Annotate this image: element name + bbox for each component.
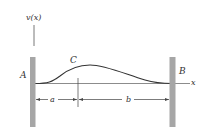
dimension-a-label: a xyxy=(50,95,55,104)
vertical-axis-label: v(x) xyxy=(26,13,41,22)
point-c-label: C xyxy=(70,55,77,65)
x-axis-label: x xyxy=(191,78,196,87)
left-support-label: A xyxy=(19,70,27,80)
deflection-curve xyxy=(35,65,172,84)
left-fixed-support xyxy=(30,57,36,127)
right-fixed-support xyxy=(170,57,176,127)
dimension-b xyxy=(79,98,169,101)
beam-deflection-diagram: v(x) x A B C a b xyxy=(0,0,214,132)
dimension-b-label: b xyxy=(126,95,131,104)
dimension-a xyxy=(36,98,77,101)
right-support-label: B xyxy=(178,66,186,76)
